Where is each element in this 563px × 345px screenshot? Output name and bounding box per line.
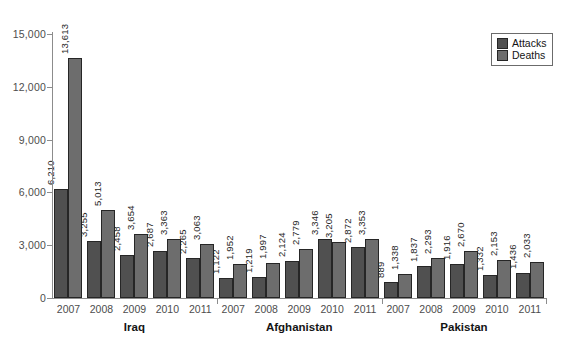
bar-attacks-afghanistan-2009 xyxy=(285,261,299,298)
bar-deaths-iraq-2009 xyxy=(134,234,148,298)
y-axis-tick-label: 0 xyxy=(6,292,46,304)
legend-label-attacks: Attacks xyxy=(512,37,546,49)
group-boundary-tick xyxy=(382,299,383,304)
legend: Attacks Deaths xyxy=(491,33,553,66)
bar-attacks-pakistan-2008 xyxy=(417,266,431,298)
bar-value-label-deaths-pakistan-2009: 2,670 xyxy=(456,222,466,247)
year-label-pakistan-2009: 2009 xyxy=(452,303,475,315)
bar-value-label-deaths-afghanistan-2010: 3,205 xyxy=(324,213,334,238)
y-axis-tick-label: 6,000 xyxy=(6,186,46,198)
bar-attacks-iraq-2008 xyxy=(87,241,101,298)
bar-value-label-attacks-afghanistan-2011: 2,872 xyxy=(343,218,353,243)
bar-value-label-deaths-pakistan-2007: 1,338 xyxy=(390,245,400,270)
bar-value-label-deaths-afghanistan-2011: 3,353 xyxy=(357,210,367,235)
bar-attacks-iraq-2011 xyxy=(186,258,200,298)
year-label-iraq-2010: 2010 xyxy=(156,303,179,315)
y-axis-tick-label: 9,000 xyxy=(6,134,46,146)
country-label-pakistan: Pakistan xyxy=(440,321,487,333)
bar-deaths-iraq-2007 xyxy=(68,58,82,298)
y-axis-tick-label: 12,000 xyxy=(6,81,46,93)
bar-value-label-deaths-iraq-2007: 13,613 xyxy=(60,24,70,54)
legend-label-deaths: Deaths xyxy=(512,49,545,61)
year-label-afghanistan-2010: 2010 xyxy=(320,303,343,315)
bar-value-label-deaths-iraq-2008: 5,013 xyxy=(93,181,103,206)
bar-attacks-pakistan-2009 xyxy=(450,264,464,298)
year-label-afghanistan-2011: 2011 xyxy=(354,303,377,315)
y-axis-tick-label: 3,000 xyxy=(6,239,46,251)
x-axis-line xyxy=(52,298,547,299)
bar-value-label-deaths-pakistan-2010: 2,153 xyxy=(489,231,499,256)
bar-attacks-iraq-2007 xyxy=(54,189,68,298)
legend-swatch-attacks-icon xyxy=(497,38,508,49)
year-label-iraq-2011: 2011 xyxy=(189,303,212,315)
bar-deaths-afghanistan-2010 xyxy=(332,242,346,298)
bar-value-label-attacks-pakistan-2009: 1,916 xyxy=(442,235,452,260)
year-label-pakistan-2008: 2008 xyxy=(419,303,442,315)
year-label-pakistan-2007: 2007 xyxy=(386,303,409,315)
y-axis-tick-label: 15,000 xyxy=(6,28,46,40)
bar-deaths-pakistan-2009 xyxy=(464,251,478,298)
year-label-pakistan-2010: 2010 xyxy=(485,303,508,315)
group-boundary-tick xyxy=(546,299,547,304)
country-label-iraq: Iraq xyxy=(124,321,145,333)
country-label-afghanistan: Afghanistan xyxy=(266,321,332,333)
year-label-pakistan-2011: 2011 xyxy=(519,303,542,315)
bar-attacks-afghanistan-2010 xyxy=(318,239,332,298)
bar-value-label-deaths-iraq-2011: 3,063 xyxy=(192,215,202,240)
bar-deaths-afghanistan-2011 xyxy=(365,239,379,298)
bar-value-label-deaths-iraq-2009: 3,654 xyxy=(126,205,136,230)
legend-row-deaths: Deaths xyxy=(497,49,546,61)
bar-deaths-pakistan-2011 xyxy=(530,262,544,298)
y-axis-line xyxy=(52,32,53,299)
bar-value-label-attacks-pakistan-2008: 1,837 xyxy=(409,237,419,262)
bar-deaths-iraq-2011 xyxy=(200,244,214,298)
bar-attacks-afghanistan-2008 xyxy=(252,277,266,298)
bar-attacks-pakistan-2007 xyxy=(384,282,398,298)
bar-deaths-pakistan-2010 xyxy=(497,260,511,298)
year-label-iraq-2008: 2008 xyxy=(90,303,113,315)
year-label-afghanistan-2009: 2009 xyxy=(288,303,311,315)
year-label-iraq-2007: 2007 xyxy=(57,303,80,315)
bar-value-label-deaths-iraq-2010: 3,363 xyxy=(159,210,169,235)
bar-deaths-afghanistan-2009 xyxy=(299,249,313,298)
bar-deaths-iraq-2008 xyxy=(101,210,115,298)
bar-deaths-pakistan-2008 xyxy=(431,258,445,298)
bar-value-label-deaths-afghanistan-2008: 1,997 xyxy=(258,234,268,259)
terrorism-attacks-deaths-bar-chart: 2,0331,43620112,1531,33220102,6701,91620… xyxy=(0,0,563,345)
bar-value-label-attacks-afghanistan-2010: 3,346 xyxy=(310,210,320,235)
bar-deaths-afghanistan-2007 xyxy=(233,264,247,298)
year-label-iraq-2009: 2009 xyxy=(123,303,146,315)
bar-deaths-pakistan-2007 xyxy=(398,274,412,298)
bar-deaths-iraq-2010 xyxy=(167,239,181,298)
bar-attacks-afghanistan-2011 xyxy=(351,247,365,298)
legend-row-attacks: Attacks xyxy=(497,37,546,49)
bar-attacks-pakistan-2011 xyxy=(516,273,530,298)
bar-value-label-deaths-pakistan-2011: 2,033 xyxy=(522,233,532,258)
bar-attacks-iraq-2009 xyxy=(120,255,134,298)
bar-value-label-deaths-afghanistan-2009: 2,779 xyxy=(291,220,301,245)
group-boundary-tick xyxy=(217,299,218,304)
bar-value-label-attacks-afghanistan-2009: 2,124 xyxy=(277,232,287,257)
year-label-afghanistan-2008: 2008 xyxy=(255,303,278,315)
bar-attacks-iraq-2010 xyxy=(153,251,167,298)
year-label-afghanistan-2007: 2007 xyxy=(222,303,245,315)
bar-attacks-pakistan-2010 xyxy=(483,275,497,298)
legend-swatch-deaths-icon xyxy=(497,50,508,61)
bar-attacks-afghanistan-2007 xyxy=(219,278,233,298)
bar-value-label-deaths-pakistan-2008: 2,293 xyxy=(423,229,433,254)
bar-value-label-deaths-afghanistan-2007: 1,952 xyxy=(225,235,235,260)
bar-deaths-afghanistan-2008 xyxy=(266,263,280,298)
